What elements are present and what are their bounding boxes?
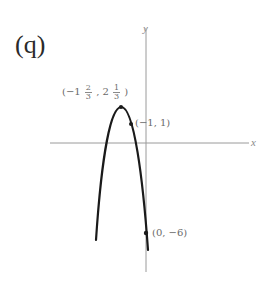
vertex-label-close: ) <box>124 86 128 97</box>
vertex-fraction-2: 1 3 <box>113 84 120 101</box>
figure-q: (q) y x (−1 2 3 , 2 1 3 ) (−1, 1) (0, −6… <box>0 0 269 305</box>
vertex-label-sep: , 2 <box>96 86 109 97</box>
x-axis-label: x <box>251 136 256 148</box>
point-0-neg6-label: (0, −6) <box>152 227 187 238</box>
vertex-point <box>119 105 123 109</box>
parabola-curve <box>96 107 148 250</box>
point-0-neg6 <box>144 231 148 235</box>
fraction-denominator: 3 <box>113 93 120 101</box>
part-label: (q) <box>15 30 45 60</box>
vertex-label-open: (−1 <box>62 86 81 97</box>
fraction-denominator: 3 <box>85 93 92 101</box>
y-axis-label: y <box>143 22 148 34</box>
point-neg1-1-label: (−1, 1) <box>135 117 170 128</box>
vertex-fraction-1: 2 3 <box>85 84 92 101</box>
vertex-label: (−1 2 3 , 2 1 3 ) <box>62 84 128 101</box>
point-neg1-1 <box>129 122 133 126</box>
